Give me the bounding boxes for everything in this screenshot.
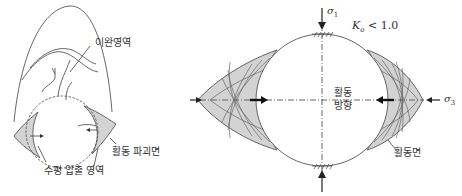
k0-symbol: K (352, 19, 360, 32)
sliding-direction-label: 활동 방향 (334, 86, 352, 112)
sliding-direction-line2: 방향 (334, 99, 352, 112)
crack-line (42, 68, 55, 92)
sigma1-subscript: 1 (334, 11, 338, 19)
k0-value: < 1.0 (364, 19, 398, 32)
crack-line (58, 60, 70, 96)
sliding-plane-label: 활동면 (394, 148, 421, 158)
left-tunnel-diagram (14, 6, 116, 168)
sigma3-label: σ3 (444, 94, 455, 107)
right-tunnel-diagram (190, 8, 440, 192)
sigma1-symbol: σ (327, 5, 334, 16)
k0-condition-label: Ko < 1.0 (352, 20, 398, 34)
horizontal-compression-zone-label: 수평 압출 영역 (44, 166, 104, 176)
sliding-failure-plane-label: 활동 파괴면 (112, 147, 160, 157)
sigma3-symbol: σ (444, 93, 451, 104)
sliding-direction-line1: 활동 (334, 86, 352, 99)
tunnel-outline (26, 96, 98, 168)
leader-line (110, 138, 116, 144)
crack-line (78, 125, 96, 127)
relaxation-zone-label: 이완영역 (95, 38, 131, 48)
crack-line (22, 52, 98, 80)
loosening-arch (14, 6, 112, 122)
compression-zone-left (14, 112, 40, 158)
sigma1-label: σ1 (327, 6, 338, 19)
sigma3-subscript: 3 (451, 99, 455, 107)
crack-line (66, 82, 72, 100)
